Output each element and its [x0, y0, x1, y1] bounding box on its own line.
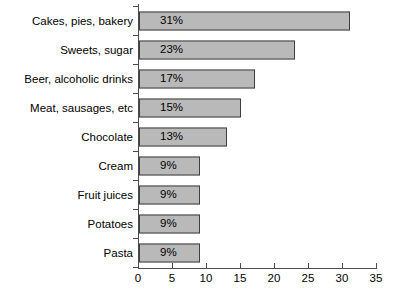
x-axis-tick-label: 20 — [268, 272, 281, 285]
y-axis-tick — [133, 6, 139, 7]
bar-value-label: 31% — [160, 14, 183, 27]
bar-value-label: 9% — [160, 188, 177, 201]
category-label: Sweets, sugar — [60, 43, 133, 56]
bar-value-label: 15% — [160, 101, 183, 114]
x-axis-tick — [138, 263, 139, 269]
category-label: Potatoes — [88, 217, 133, 230]
bar-value-label: 23% — [160, 43, 183, 56]
y-axis-tick — [133, 180, 139, 181]
bar: 9% — [139, 243, 200, 262]
x-axis-tick — [274, 263, 275, 269]
bar: 23% — [139, 40, 295, 59]
bar-row: Sweets, sugar23% — [0, 35, 408, 64]
bar-value-label: 9% — [160, 246, 177, 259]
category-label: Beer, alcoholic drinks — [24, 72, 133, 85]
x-axis-tick — [342, 263, 343, 269]
x-axis-tick-label: 25 — [302, 272, 315, 285]
bar-row: Potatoes9% — [0, 209, 408, 238]
y-axis-tick — [133, 93, 139, 94]
x-axis-tick-label: 35 — [370, 272, 383, 285]
y-axis-tick — [133, 209, 139, 210]
bar-value-label: 13% — [160, 130, 183, 143]
bar-row: Meat, sausages, etc15% — [0, 93, 408, 122]
bar: 17% — [139, 69, 255, 88]
x-axis-tick-label: 30 — [336, 272, 349, 285]
x-axis-tick-label: 0 — [135, 272, 141, 285]
x-axis-tick-label: 15 — [234, 272, 247, 285]
bar-row: Fruit juices9% — [0, 180, 408, 209]
category-label: Pasta — [104, 246, 133, 259]
x-axis-tick — [206, 263, 207, 269]
bar: 13% — [139, 127, 227, 146]
bar: 15% — [139, 98, 241, 117]
bar: 9% — [139, 214, 200, 233]
category-label: Meat, sausages, etc — [30, 101, 133, 114]
bar: 9% — [139, 185, 200, 204]
bar-row: Cakes, pies, bakery31% — [0, 6, 408, 35]
x-axis-tick — [240, 263, 241, 269]
bar-row: Chocolate13% — [0, 122, 408, 151]
x-axis-tick-label: 10 — [200, 272, 213, 285]
category-label: Cakes, pies, bakery — [32, 14, 133, 27]
y-axis-tick — [133, 238, 139, 239]
x-axis-tick-label: 5 — [169, 272, 175, 285]
bar: 9% — [139, 156, 200, 175]
x-axis-tick — [376, 263, 377, 269]
bar-row: Pasta9% — [0, 238, 408, 267]
x-axis-tick — [308, 263, 309, 269]
bar-value-label: 9% — [160, 217, 177, 230]
category-label: Chocolate — [81, 130, 133, 143]
category-label: Fruit juices — [77, 188, 133, 201]
y-axis-tick — [133, 35, 139, 36]
bar-row: Beer, alcoholic drinks17% — [0, 64, 408, 93]
category-label: Cream — [98, 159, 133, 172]
bar-chart: Cakes, pies, bakery31%Sweets, sugar23%Be… — [0, 0, 408, 294]
bar: 31% — [139, 11, 350, 30]
bar-value-label: 9% — [160, 159, 177, 172]
bar-row: Cream9% — [0, 151, 408, 180]
bar-value-label: 17% — [160, 72, 183, 85]
y-axis-tick — [133, 151, 139, 152]
y-axis-tick — [133, 122, 139, 123]
x-axis-tick — [172, 263, 173, 269]
y-axis-tick — [133, 64, 139, 65]
